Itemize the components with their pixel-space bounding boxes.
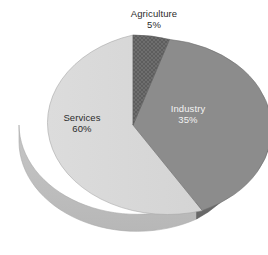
pie-top-faces (47, 35, 268, 215)
pie-chart-graphic (0, 0, 268, 255)
pie-chart-figure: Agriculture 5% Industry 35% Services 60% (0, 0, 268, 255)
